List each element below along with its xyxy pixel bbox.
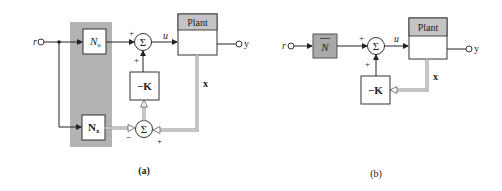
input-label-r: r bbox=[282, 40, 286, 51]
state-vector-arrowhead bbox=[153, 127, 160, 134]
plant-label: Plant bbox=[187, 17, 208, 28]
state-vector-wire-inner bbox=[397, 59, 427, 90]
plant-label: Plant bbox=[418, 22, 439, 33]
gain-label-k: −K bbox=[368, 84, 383, 96]
caption-a: (a) bbox=[138, 165, 150, 177]
sum2-sign-left: − bbox=[126, 132, 132, 143]
sum-symbol: Σ bbox=[373, 40, 379, 52]
sum2-sign-right: + bbox=[157, 136, 162, 146]
sum-sign-bottom: + bbox=[365, 59, 370, 69]
sum2-symbol: Σ bbox=[141, 123, 147, 135]
state-label-x: x bbox=[433, 71, 438, 82]
state-vector-arrowhead bbox=[390, 87, 397, 94]
sum1-sign-bottom: + bbox=[134, 55, 139, 65]
input-label-r: r bbox=[33, 36, 37, 47]
nx-vector-arrowhead bbox=[128, 125, 135, 132]
sum1-symbol: Σ bbox=[140, 36, 146, 48]
state-vector-wire bbox=[160, 55, 197, 130]
state-vector-wire bbox=[397, 59, 427, 90]
control-label-u: u bbox=[394, 33, 399, 44]
state-label-x: x bbox=[203, 78, 208, 89]
input-terminal-r bbox=[288, 43, 294, 49]
output-label-y: y bbox=[474, 43, 479, 54]
sum-sign-left: + bbox=[359, 33, 364, 43]
caption-b: (b) bbox=[370, 168, 382, 180]
diagram-a: r Nu Σ + + u Plant y x Nx bbox=[33, 14, 249, 177]
nbar-label: N bbox=[320, 41, 329, 53]
block-diagrams: r Nu Σ + + u Plant y x Nx bbox=[0, 0, 502, 191]
diagram-b: r N Σ + + u Plant y x −K (b) bbox=[282, 18, 479, 180]
output-terminal-y bbox=[236, 41, 242, 47]
error-vector-arrowhead bbox=[141, 100, 148, 107]
gain-label-k: −K bbox=[137, 80, 152, 92]
input-terminal-r bbox=[38, 39, 44, 45]
control-label-u: u bbox=[163, 30, 168, 41]
sum1-sign-left: + bbox=[129, 28, 134, 38]
state-vector-wire-inner bbox=[160, 55, 197, 130]
output-terminal-y bbox=[466, 46, 472, 52]
output-label-y: y bbox=[244, 38, 249, 49]
